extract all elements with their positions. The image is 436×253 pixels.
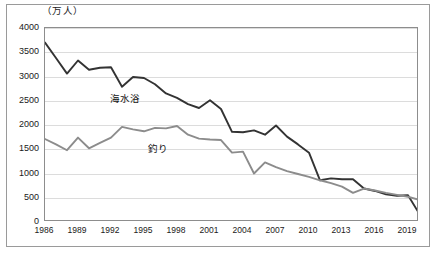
- series-label-seawater-bathing: 海水浴: [110, 91, 140, 105]
- x-axis-tick-labels: 1986198919921995199820012004200720102013…: [44, 223, 418, 245]
- series-line-fishing: [45, 126, 418, 200]
- x-axis-tick-label: 1998: [167, 225, 186, 235]
- plot-area: [44, 27, 418, 221]
- y-axis-tick-label: 1500: [19, 143, 39, 153]
- x-axis-tick-label: 2007: [266, 225, 285, 235]
- x-axis-tick-label: 2010: [299, 225, 318, 235]
- x-axis-tick-label: 2016: [365, 225, 384, 235]
- x-axis-tick-label: 2013: [332, 225, 351, 235]
- series-label-fishing: 釣り: [148, 141, 168, 155]
- y-axis-tick-label: 3000: [19, 71, 39, 81]
- y-axis-tick-label: 1000: [19, 168, 39, 178]
- y-axis-tick-label: 3500: [19, 46, 39, 56]
- x-axis-tick-label: 1995: [134, 225, 153, 235]
- x-axis-tick-label: 2004: [233, 225, 252, 235]
- y-axis-tick-label: 500: [24, 192, 39, 202]
- y-axis-unit-label: （万人）: [42, 3, 83, 17]
- y-axis-tick-label: 4000: [19, 22, 39, 32]
- y-axis-tick-label: 2500: [19, 95, 39, 105]
- x-axis-tick-label: 2019: [398, 225, 417, 235]
- series-lines: [45, 28, 418, 221]
- x-axis-tick-label: 1989: [68, 225, 87, 235]
- y-axis-tick-label: 2000: [19, 119, 39, 129]
- chart-container: （万人） 05001000150020002500300035004000 海水…: [0, 0, 436, 253]
- y-axis-tick-labels: 05001000150020002500300035004000: [0, 27, 44, 221]
- x-axis-tick-label: 2001: [200, 225, 219, 235]
- x-axis-tick-label: 1986: [35, 225, 54, 235]
- series-line-seawater-bathing: [45, 43, 418, 214]
- x-axis-tick-label: 1992: [101, 225, 120, 235]
